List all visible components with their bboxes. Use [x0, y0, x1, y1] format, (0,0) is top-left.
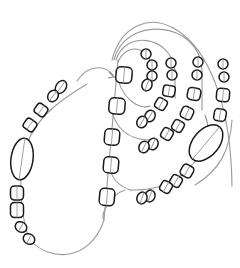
- square-bead: [103, 156, 119, 173]
- thread-line: [21, 60, 118, 255]
- square-bead: [179, 105, 195, 121]
- square-bead: [115, 66, 132, 83]
- thread-line: [112, 22, 232, 186]
- oval-bead: [166, 58, 176, 68]
- square-bead: [216, 88, 230, 102]
- oval-bead: [219, 72, 229, 82]
- square-bead: [187, 87, 202, 101]
- oval-bead: [192, 70, 202, 80]
- bead-chain-drawing: [0, 0, 240, 268]
- square-bead: [33, 102, 49, 118]
- oval-bead: [167, 70, 177, 80]
- oval-bead: [218, 59, 228, 69]
- square-bead: [162, 85, 176, 98]
- oval-bead: [147, 60, 157, 70]
- thread-line: [77, 68, 114, 81]
- square-bead: [11, 203, 24, 218]
- oval-bead: [193, 57, 203, 67]
- square-bead: [99, 188, 115, 206]
- oval-bead: [141, 49, 151, 59]
- square-bead: [22, 117, 38, 133]
- square-bead: [11, 186, 24, 200]
- oval-bead: [8, 137, 36, 182]
- square-bead: [153, 96, 168, 111]
- oval-bead: [183, 119, 230, 168]
- square-bead: [213, 108, 227, 122]
- square-bead: [108, 97, 125, 114]
- square-bead: [179, 163, 195, 179]
- square-bead: [104, 128, 120, 145]
- beads: [8, 49, 230, 246]
